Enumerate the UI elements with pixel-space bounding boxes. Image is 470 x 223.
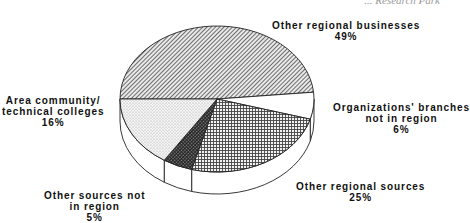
label-text-2: not in region bbox=[333, 113, 470, 124]
slice-label-other-regional-businesses: Other regional businesses 49% bbox=[272, 20, 420, 42]
label-text-2: technical colleges bbox=[2, 106, 104, 117]
slice-label-other-regional-sources: Other regional sources 25% bbox=[296, 181, 425, 203]
label-text: Area community/ bbox=[2, 95, 104, 106]
label-text-2: in region bbox=[44, 201, 145, 212]
slice-label-other-sources-not-in-region: Other sources not in region 5% bbox=[44, 190, 145, 223]
label-text: Other regional businesses bbox=[272, 20, 420, 31]
label-value: 49% bbox=[272, 31, 420, 42]
label-value: 25% bbox=[296, 192, 425, 203]
label-text: Organizations' branches bbox=[333, 102, 470, 113]
slice-label-organizations-branches: Organizations' branches not in region 6% bbox=[333, 102, 470, 135]
label-text: Other regional sources bbox=[296, 181, 425, 192]
label-value: 6% bbox=[333, 124, 470, 135]
label-value: 5% bbox=[44, 212, 145, 223]
slice-label-area-community-colleges: Area community/ technical colleges 16% bbox=[2, 95, 104, 128]
label-text: Other sources not bbox=[44, 190, 145, 201]
label-value: 16% bbox=[2, 117, 104, 128]
